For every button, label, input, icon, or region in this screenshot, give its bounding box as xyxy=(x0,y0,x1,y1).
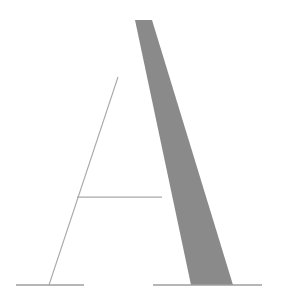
letter-a-figure xyxy=(0,0,282,301)
glyph-canvas: A xyxy=(0,0,282,301)
